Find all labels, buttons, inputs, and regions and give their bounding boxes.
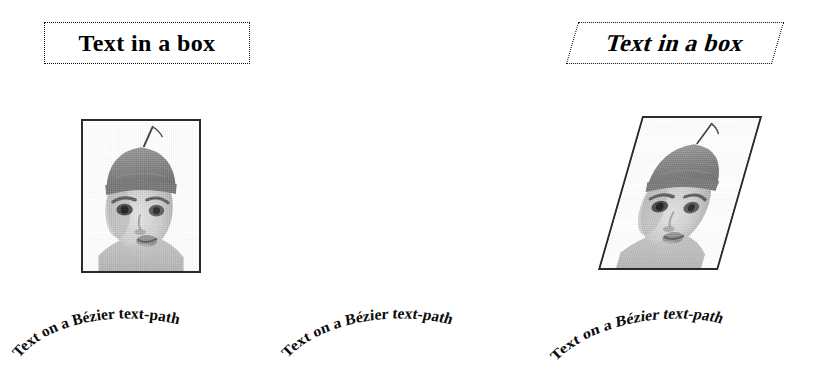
portrait-bitmap bbox=[83, 121, 199, 271]
bezier-textpath-svg-identity: Text on a Bézier text-path bbox=[0, 282, 272, 374]
portrait-image-identity bbox=[81, 119, 201, 273]
bezier-textpath-label: Text on a Bézier text-path bbox=[277, 304, 457, 360]
figure-canvas: Text in a box bbox=[0, 0, 814, 374]
image-cell bbox=[0, 0, 272, 200]
bezier-textpath-label: Text on a Bézier text-path bbox=[9, 304, 183, 360]
textpath-cell: Text on a Bézier text-path bbox=[272, 282, 544, 374]
figure-column-rotate-skew: Text in a box bbox=[542, 0, 814, 374]
textpath-cell: Text on a Bézier text-path bbox=[0, 282, 272, 374]
textpath-cell: Text on a Bézier text-path bbox=[542, 282, 814, 374]
figure-column-skew: Text in a box bbox=[272, 0, 544, 374]
bezier-textpath-label: Text on a Bézier text-path bbox=[545, 303, 728, 364]
figure-column-identity: Text in a box bbox=[0, 0, 272, 374]
bezier-textpath-svg-rotated: Text on a Bézier text-path bbox=[533, 278, 814, 374]
image-cell bbox=[272, 0, 544, 200]
portrait-svg bbox=[83, 121, 199, 271]
bezier-textpath-svg-skewed: Text on a Bézier text-path bbox=[266, 282, 549, 374]
image-cell bbox=[542, 0, 814, 200]
